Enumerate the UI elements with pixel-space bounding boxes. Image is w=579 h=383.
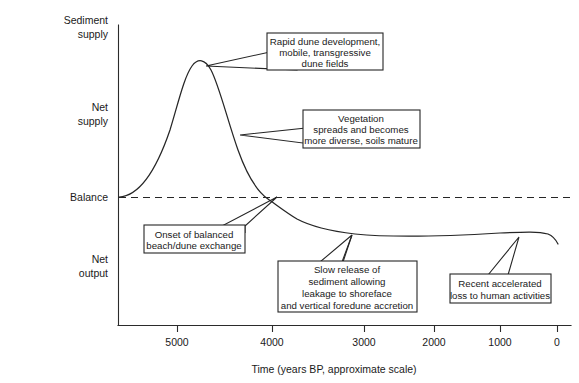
- callout-slow-release-line3: leakage to shoreface: [302, 288, 392, 299]
- callout-vegetation-line2: spreads and becomes: [313, 124, 408, 135]
- callout-recent-loss-line1: Recent accelerated: [458, 278, 541, 289]
- y-label-balance: Balance: [70, 191, 108, 203]
- y-label-net-output-line1: Net: [92, 253, 108, 265]
- callout-onset-line2: beach/dune exchange: [146, 240, 241, 251]
- y-label-sediment-supply-line1: Sediment: [64, 14, 108, 26]
- y-axis-labels: Sediment supply Net supply Balance Net o…: [64, 14, 109, 279]
- callout-rapid-dune-line2: mobile, transgressive: [279, 47, 371, 58]
- x-tick-label-3000: 3000: [352, 336, 376, 348]
- callout-onset-line1: Onset of balanced: [155, 229, 234, 240]
- callout-rapid-dune-line1: Rapid dune development,: [270, 36, 380, 47]
- callout-vegetation-line3: more diverse, soils mature: [304, 135, 418, 146]
- callout-vegetation-line1: Vegetation: [338, 113, 384, 124]
- callout-slow-release-leader: [308, 235, 352, 262]
- callout-rapid-dune-line3: dune fields: [302, 58, 349, 69]
- sediment-supply-curve: [119, 61, 558, 244]
- x-tick-label-1000: 1000: [488, 336, 512, 348]
- x-axis-title: Time (years BP, approximate scale): [251, 363, 416, 375]
- callout-recent-loss-line2: loss to human activities: [450, 290, 550, 301]
- x-tick-label-2000: 2000: [422, 336, 446, 348]
- y-label-net-output-line2: output: [79, 267, 108, 279]
- x-tick-label-5000: 5000: [165, 336, 189, 348]
- callout-vegetation-spreads: Vegetation spreads and becomes more dive…: [240, 110, 420, 148]
- sediment-supply-chart: 5000 4000 3000 2000 1000 0 Time (years B…: [0, 0, 579, 383]
- callout-slow-release-line2: sediment allowing: [308, 276, 385, 287]
- callout-rapid-dune-development: Rapid dune development, mobile, transgre…: [206, 33, 383, 70]
- x-tick-label-4000: 4000: [260, 336, 284, 348]
- x-tick-label-0: 0: [554, 336, 560, 348]
- y-label-net-supply-line1: Net: [92, 101, 108, 113]
- sediment-supply-figure: 5000 4000 3000 2000 1000 0 Time (years B…: [0, 0, 579, 383]
- y-label-sediment-supply-line2: supply: [78, 28, 109, 40]
- x-axis-ticks: 5000 4000 3000 2000 1000 0: [165, 325, 560, 348]
- callout-onset-balanced-exchange: Onset of balanced beach/dune exchange: [144, 197, 277, 253]
- callout-slow-release-line4: and vertical foredune accretion: [281, 300, 413, 311]
- callout-slow-release-sediment: Slow release of sediment allowing leakag…: [278, 235, 417, 312]
- callout-recent-accelerated-loss: Recent accelerated loss to human activit…: [450, 237, 551, 303]
- callout-slow-release-line1: Slow release of: [314, 264, 381, 275]
- callout-recent-loss-leader: [476, 237, 519, 275]
- y-label-net-supply-line2: supply: [78, 115, 109, 127]
